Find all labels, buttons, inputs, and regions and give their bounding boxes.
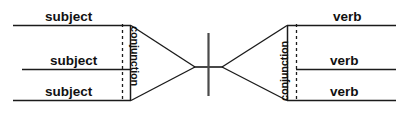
right-conjunction-label: conjunction: [278, 40, 290, 101]
verb-label-1: verb: [333, 9, 362, 24]
verb-label-3: verb: [330, 84, 359, 99]
left-conjunction-label: conjunction: [129, 26, 141, 87]
sentence-diagram-svg: subject subject subject verb verb verb c…: [0, 0, 415, 113]
subject-label-1: subject: [45, 9, 93, 24]
verb-label-2: verb: [330, 53, 359, 68]
subject-label-2: subject: [50, 53, 98, 68]
sentence-diagram-canvas: subject subject subject verb verb verb c…: [0, 0, 415, 113]
subject-label-3: subject: [45, 84, 93, 99]
